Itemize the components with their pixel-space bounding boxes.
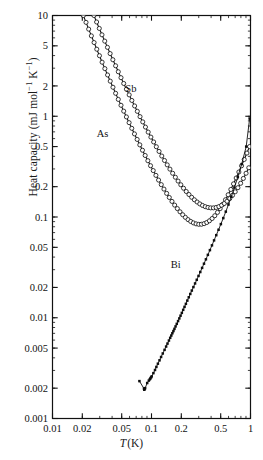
data-point bbox=[124, 115, 128, 119]
data-point bbox=[174, 325, 177, 328]
data-point bbox=[173, 328, 176, 331]
y-axis-label: Heat capacity (mJ mol−1 K−1) bbox=[25, 17, 39, 237]
data-point bbox=[138, 143, 142, 147]
data-point bbox=[154, 369, 157, 372]
data-point bbox=[160, 154, 164, 158]
data-point bbox=[177, 320, 180, 323]
data-point bbox=[146, 130, 150, 134]
data-point bbox=[209, 249, 212, 252]
x-axis-label: T (K) bbox=[0, 437, 263, 449]
data-point bbox=[116, 70, 120, 74]
x-tick-label: 0.2 bbox=[175, 423, 188, 434]
data-point bbox=[122, 109, 126, 113]
data-point bbox=[151, 169, 155, 173]
data-point bbox=[143, 125, 147, 129]
data-point bbox=[135, 137, 139, 141]
data-point bbox=[245, 151, 249, 155]
data-point bbox=[170, 199, 174, 203]
y-tick-label: 0.005 bbox=[24, 343, 48, 354]
y-tick-label: 0.002 bbox=[24, 383, 48, 394]
data-point bbox=[196, 279, 199, 282]
data-point bbox=[194, 282, 197, 285]
data-point bbox=[182, 309, 185, 312]
data-point bbox=[171, 332, 174, 335]
data-point bbox=[97, 26, 101, 30]
data-point bbox=[162, 352, 165, 355]
data-point bbox=[114, 91, 118, 95]
y-tick-label: 5 bbox=[43, 40, 48, 51]
data-point bbox=[149, 135, 153, 139]
data-point bbox=[154, 145, 158, 149]
data-point bbox=[168, 167, 172, 171]
data-point bbox=[239, 181, 243, 185]
data-point bbox=[197, 275, 200, 278]
data-point bbox=[133, 104, 137, 108]
data-point bbox=[183, 306, 186, 309]
data-point bbox=[119, 103, 123, 107]
data-point bbox=[181, 312, 184, 315]
data-point bbox=[240, 163, 243, 166]
y-tick-label: 2 bbox=[43, 81, 48, 92]
data-point bbox=[144, 387, 147, 390]
data-point bbox=[146, 382, 149, 385]
data-point bbox=[162, 187, 166, 191]
data-point bbox=[173, 175, 177, 179]
data-point bbox=[205, 258, 208, 261]
data-point bbox=[157, 178, 161, 182]
data-point bbox=[114, 64, 118, 68]
data-point bbox=[103, 39, 107, 43]
data-point bbox=[217, 229, 220, 232]
data-point bbox=[215, 234, 218, 237]
x-tick-label: 0.05 bbox=[113, 423, 131, 434]
chart-canvas: 0.010.020.050.10.20.510.0010.0020.0050.0… bbox=[0, 0, 263, 460]
data-point bbox=[92, 40, 96, 44]
data-point bbox=[211, 244, 214, 247]
data-point bbox=[143, 153, 147, 157]
data-point bbox=[111, 58, 115, 62]
data-point bbox=[169, 337, 172, 340]
x-tick-label: 0.01 bbox=[43, 423, 61, 434]
data-point bbox=[236, 186, 240, 190]
data-point bbox=[105, 45, 109, 49]
data-point bbox=[176, 179, 180, 183]
data-point bbox=[165, 163, 169, 167]
data-point bbox=[213, 239, 216, 242]
data-point bbox=[160, 356, 163, 359]
data-point bbox=[207, 254, 210, 257]
data-point bbox=[188, 296, 191, 299]
data-point bbox=[227, 203, 230, 206]
data-point bbox=[81, 13, 85, 17]
data-point bbox=[138, 380, 141, 383]
series-annotation-bi: Bi bbox=[171, 259, 181, 270]
data-point bbox=[146, 159, 150, 163]
y-tick-label: 0.01 bbox=[30, 312, 48, 323]
data-point bbox=[230, 195, 233, 198]
data-point bbox=[229, 187, 233, 191]
series-sb bbox=[92, 13, 251, 209]
data-point bbox=[233, 186, 236, 189]
data-point bbox=[176, 323, 179, 326]
data-point bbox=[100, 60, 104, 64]
data-point bbox=[132, 132, 136, 136]
data-point bbox=[166, 342, 169, 345]
data-point bbox=[172, 330, 175, 333]
data-point bbox=[87, 27, 91, 31]
data-point bbox=[95, 47, 99, 51]
data-point bbox=[244, 171, 248, 175]
y-tick-label: 0.05 bbox=[30, 242, 48, 253]
data-point bbox=[95, 20, 99, 24]
data-point bbox=[119, 76, 123, 80]
data-point bbox=[116, 97, 120, 101]
data-point bbox=[247, 166, 251, 170]
data-point bbox=[103, 67, 107, 71]
data-point bbox=[140, 148, 144, 152]
x-tick-label: 0.02 bbox=[73, 423, 91, 434]
data-point bbox=[162, 158, 166, 162]
data-point bbox=[127, 121, 131, 125]
y-tick-label: 10 bbox=[38, 10, 49, 21]
data-point bbox=[152, 372, 155, 375]
x-tick-label: 0.5 bbox=[214, 423, 227, 434]
data-point bbox=[150, 375, 153, 378]
data-point bbox=[165, 191, 169, 195]
data-point bbox=[191, 289, 194, 292]
